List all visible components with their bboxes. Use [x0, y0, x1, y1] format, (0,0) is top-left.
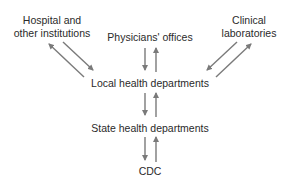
node-hospital-line2: other institutions	[14, 27, 90, 40]
node-clinical-line2: laboratories	[222, 27, 277, 40]
node-clinical-line1: Clinical	[222, 14, 277, 27]
arrow-local-to-clinical	[216, 44, 251, 77]
node-hospital: Hospital and other institutions	[14, 14, 90, 39]
node-local-label: Local health departments	[91, 77, 209, 90]
arrow-hospital-to-local	[63, 42, 93, 70]
node-clinical: Clinical laboratories	[222, 14, 277, 39]
node-state-health-departments: State health departments	[91, 122, 208, 135]
node-physicians: Physicians' offices	[107, 31, 192, 44]
node-cdc-label: CDC	[139, 165, 162, 178]
arrow-clinical-to-local	[207, 42, 237, 70]
node-hospital-line1: Hospital and	[14, 14, 90, 27]
node-local-health-departments: Local health departments	[91, 77, 209, 90]
node-cdc: CDC	[139, 165, 162, 178]
node-physicians-label: Physicians' offices	[107, 31, 192, 44]
node-state-label: State health departments	[91, 122, 208, 135]
arrow-local-to-hospital	[49, 44, 84, 77]
